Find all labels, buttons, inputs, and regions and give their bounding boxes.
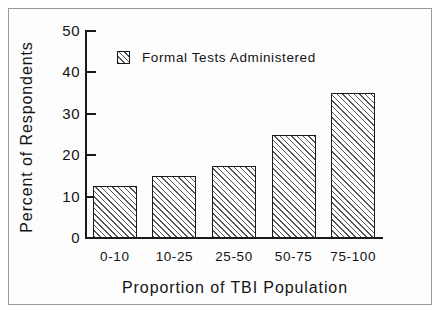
bar — [331, 93, 375, 238]
y-axis-tick-label: 10 — [50, 188, 80, 205]
y-axis-tick — [87, 71, 96, 73]
x-axis-tick-label: 0-10 — [85, 249, 145, 264]
y-axis-title: Percent of Respondents — [18, 32, 36, 242]
y-axis-tick-label: 20 — [50, 146, 80, 163]
bar — [212, 166, 256, 238]
bar — [93, 186, 137, 238]
y-axis-tick — [87, 113, 96, 115]
y-axis-tick — [87, 154, 96, 156]
chart-legend: Formal Tests Administered — [117, 50, 316, 65]
x-axis-tick-label: 25-50 — [204, 249, 264, 264]
x-axis-tick-label: 75-100 — [323, 249, 383, 264]
bar-chart-plot-area: 01020304050 0-1010-2525-5050-7575-100 Fo… — [0, 0, 442, 317]
y-axis-tick-label: 50 — [50, 22, 80, 39]
bar — [272, 135, 316, 239]
x-axis-title: Proportion of TBI Population — [85, 279, 385, 297]
y-axis-tick — [87, 30, 96, 32]
y-axis-tick-label: 0 — [50, 229, 80, 246]
x-axis-tick-label: 10-25 — [145, 249, 205, 264]
x-axis-tick-label: 50-75 — [264, 249, 324, 264]
y-axis-line — [85, 30, 87, 239]
y-axis-tick-label: 30 — [50, 105, 80, 122]
legend-swatch-icon — [117, 51, 130, 64]
y-axis-tick-label: 40 — [50, 63, 80, 80]
bar — [152, 176, 196, 238]
figure: 01020304050 0-1010-2525-5050-7575-100 Fo… — [0, 0, 442, 317]
legend-label: Formal Tests Administered — [142, 50, 316, 65]
